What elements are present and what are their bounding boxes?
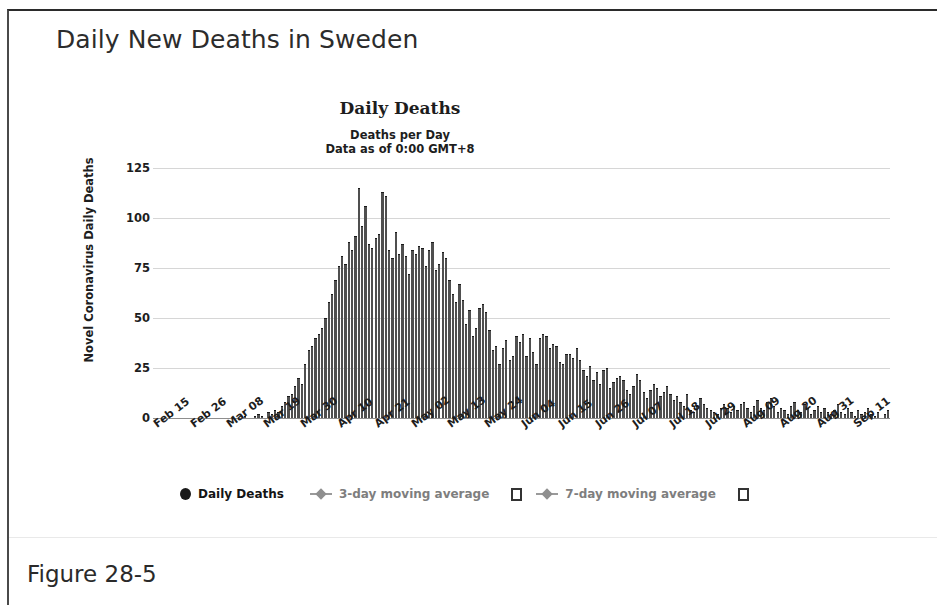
legend-label-7-day-moving-average: 7-day moving average — [565, 487, 715, 501]
bar — [813, 410, 815, 418]
y-axis-tick-label: 75 — [114, 261, 150, 275]
legend-item-7-day-moving-average[interactable]: 7-day moving average — [536, 487, 715, 501]
bar — [375, 238, 377, 418]
bar — [257, 414, 259, 418]
bar — [411, 250, 413, 418]
bar — [596, 372, 598, 418]
bar — [431, 242, 433, 418]
bar — [344, 264, 346, 418]
legend-item-daily-deaths[interactable]: Daily Deaths — [180, 487, 284, 501]
bar — [358, 188, 360, 418]
bar — [304, 364, 306, 418]
bar — [385, 196, 387, 418]
legend-label-daily-deaths: Daily Deaths — [198, 487, 284, 501]
bar — [254, 416, 256, 418]
plot-area — [153, 168, 890, 418]
page-title: Daily New Deaths in Sweden — [56, 25, 418, 54]
y-axis-tick-labels: 0255075100125 — [110, 168, 150, 418]
bar — [408, 274, 410, 418]
y-axis-tick-label: 100 — [114, 211, 150, 225]
bar — [401, 244, 403, 418]
bar — [850, 412, 852, 418]
bar — [565, 354, 567, 418]
legend-label-3-day-moving-average: 3-day moving average — [339, 487, 489, 501]
bar — [562, 364, 564, 418]
chart-figure: Daily Deaths Deaths per Day Data as of 0… — [60, 98, 890, 518]
bar — [435, 270, 437, 418]
bar — [525, 356, 527, 418]
figure-divider — [9, 537, 937, 538]
bar — [421, 248, 423, 418]
bar — [666, 386, 668, 418]
bar — [810, 414, 812, 418]
bar — [777, 412, 779, 418]
bar — [371, 248, 373, 418]
bar — [398, 254, 400, 418]
chart-title: Daily Deaths — [60, 98, 740, 118]
bar — [448, 280, 450, 418]
bar — [455, 302, 457, 418]
bar — [703, 404, 705, 418]
chart-subtitle-line-2: Data as of 0:00 GMT+8 — [60, 142, 740, 156]
bar — [529, 338, 531, 418]
y-axis-tick-label: 125 — [114, 161, 150, 175]
plot-wrapper: Novel Coronavirus Daily Deaths 025507510… — [60, 168, 890, 428]
bar — [405, 256, 407, 418]
bar — [415, 254, 417, 418]
bar — [388, 250, 390, 418]
bar — [364, 206, 366, 418]
line-diamond-icon — [310, 489, 332, 499]
bar — [488, 330, 490, 418]
y-axis-tick-label: 50 — [114, 311, 150, 325]
bar — [381, 192, 383, 418]
bar-series-daily-deaths — [153, 168, 890, 418]
bar — [458, 284, 460, 418]
y-axis-title: Novel Coronavirus Daily Deaths — [82, 135, 96, 385]
y-axis-tick-label: 25 — [114, 361, 150, 375]
bar — [425, 266, 427, 418]
y-axis-tick-label: 0 — [114, 411, 150, 425]
bar — [559, 362, 561, 418]
bar — [884, 414, 886, 418]
bar — [418, 246, 420, 418]
x-axis-tick-labels: Feb 15Feb 26Mar 08Mar 19Mar 30Apr 10Apr … — [153, 420, 890, 490]
bar — [428, 250, 430, 418]
bar — [592, 380, 594, 418]
legend-checkbox-7-day-moving-average[interactable] — [738, 488, 749, 501]
chart-subtitle-line-1: Deaths per Day — [60, 128, 740, 142]
line-diamond-icon — [536, 489, 558, 499]
bar — [341, 256, 343, 418]
bar — [351, 250, 353, 418]
bar — [452, 294, 454, 418]
bar — [391, 258, 393, 418]
bar — [462, 300, 464, 418]
chart-legend: Daily Deaths 3-day moving average 7-day … — [180, 481, 890, 507]
bar — [887, 410, 889, 418]
legend-item-3-day-moving-average[interactable]: 3-day moving average — [310, 487, 489, 501]
bar — [308, 350, 310, 418]
bar — [354, 236, 356, 418]
chart-subtitle: Deaths per Day Data as of 0:00 GMT+8 — [60, 128, 740, 156]
figure-caption: Figure 28-5 — [27, 561, 157, 587]
bar — [740, 404, 742, 418]
bar — [636, 374, 638, 418]
legend-checkbox-3-day-moving-average[interactable] — [511, 488, 522, 501]
bar — [368, 244, 370, 418]
bar — [348, 242, 350, 418]
bar — [338, 266, 340, 418]
bar — [492, 350, 494, 418]
bar — [669, 394, 671, 418]
bar — [844, 414, 846, 418]
bar — [395, 232, 397, 418]
bar — [632, 386, 634, 418]
filled-dot-icon — [180, 488, 191, 500]
bar — [736, 410, 738, 418]
bar — [378, 234, 380, 418]
bar — [361, 226, 363, 418]
